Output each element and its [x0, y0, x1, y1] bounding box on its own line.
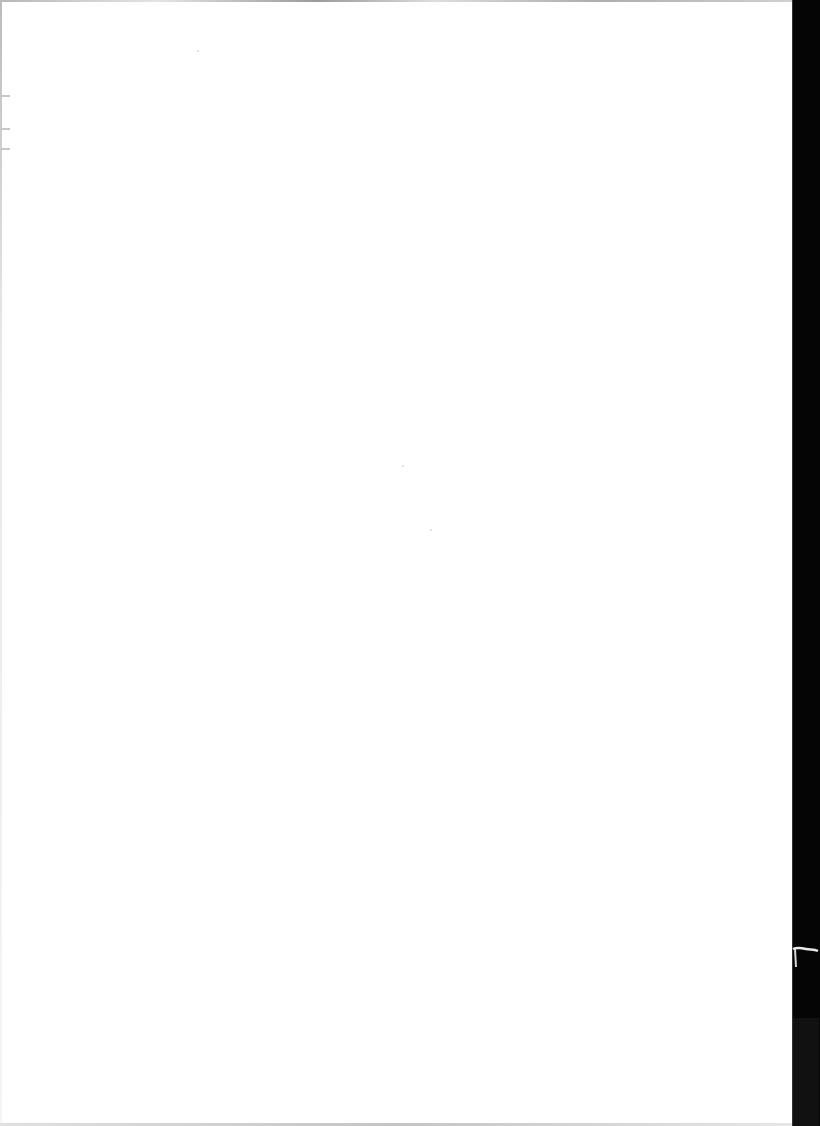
scan-mark — [0, 128, 10, 130]
scan-left-edge — [0, 0, 2, 1126]
scan-mark — [0, 148, 10, 150]
scanner-edge-strip-lower — [793, 1018, 819, 1126]
paper-tear-mark — [792, 945, 819, 975]
scan-speck — [197, 50, 199, 52]
scan-speck — [430, 529, 432, 531]
blank-page — [0, 0, 792, 1126]
scan-top-edge — [0, 0, 792, 2]
scan-mark — [0, 95, 10, 97]
scan-speck — [402, 465, 404, 467]
